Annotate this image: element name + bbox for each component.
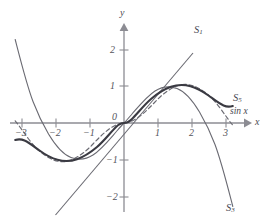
x-tick-label--2: −2: [49, 128, 61, 138]
y-tick-label--2: −2: [106, 192, 118, 202]
curve-label-s5-subscript: 5: [238, 96, 242, 104]
x-axis-arrowhead: [244, 119, 252, 128]
curve-label-s3-subscript: 3: [231, 206, 235, 214]
x-tick-label--1: −1: [83, 128, 95, 138]
x-tick-label--3: −3: [15, 128, 27, 138]
axes-group: [10, 23, 252, 212]
x-tick-label-2: 2: [189, 128, 194, 138]
taylor-series-figure: −3 −2 −1 1 2 3 2 1 −1 −2 0 y x S1 S5 sin…: [0, 0, 271, 224]
x-tick-label-1: 1: [155, 128, 160, 138]
y-tick-label-1: 1: [110, 81, 115, 91]
curve-label-s1-subscript: 1: [199, 28, 203, 36]
y-axis-arrowhead: [120, 23, 129, 31]
curve-label-s1: S1: [194, 25, 203, 36]
y-axis-label: y: [120, 8, 124, 18]
y-tick-label-2: 2: [110, 45, 115, 55]
curve-label-s5: S5: [233, 93, 242, 104]
y-tick-label--1: −1: [106, 155, 118, 165]
x-tick-label-3: 3: [223, 128, 228, 138]
origin-label: 0: [112, 112, 117, 122]
curve-label-s3: S3: [226, 203, 235, 214]
curve-label-sinx: sin x: [230, 107, 248, 117]
x-axis-label: x: [255, 117, 259, 127]
